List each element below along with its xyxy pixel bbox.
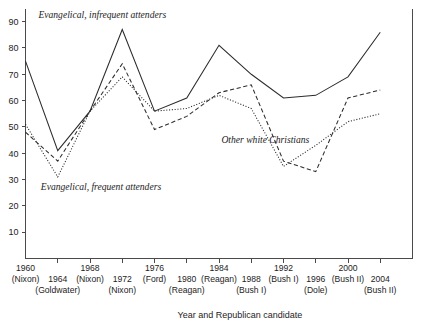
data-series-group: [26, 30, 381, 177]
x-tick-year-1980: 1980: [177, 274, 196, 284]
x-tick-candidate-1980: (Reagan): [169, 285, 205, 295]
y-tick-label: 60: [8, 96, 18, 106]
x-tick-candidate-2004: (Bush II): [364, 285, 397, 295]
y-tick-label: 50: [8, 122, 18, 132]
x-tick-year-2000: 2000: [338, 263, 357, 273]
x-tick-year-1984: 1984: [209, 263, 228, 273]
x-tick-year-2004: 2004: [371, 274, 390, 284]
y-axis-tick-labels: 102030405060708090: [8, 17, 18, 238]
series-annotation-2: Evangelical, frequent attenders: [40, 181, 162, 192]
x-tick-candidate-1968: (Nixon): [76, 274, 104, 284]
x-tick-year-1976: 1976: [145, 263, 164, 273]
y-tick-label: 20: [8, 201, 18, 211]
x-axis-title: Year and Republican candidate: [178, 310, 303, 320]
x-tick-year-1996: 1996: [306, 274, 325, 284]
x-tick-candidate-1964: (Goldwater): [35, 285, 80, 295]
x-tick-year-1972: 1972: [113, 274, 132, 284]
y-tick-label: 10: [8, 227, 18, 237]
x-tick-candidate-1996: (Dole): [304, 285, 328, 295]
x-tick-candidate-1972: (Nixon): [108, 285, 136, 295]
y-tick-label: 90: [8, 17, 18, 27]
series-annotations: Evangelical, infrequent attendersEvangel…: [37, 9, 309, 192]
x-tick-year-1968: 1968: [80, 263, 99, 273]
y-tick-label: 70: [8, 70, 18, 80]
axes-group: [22, 9, 413, 263]
x-tick-candidate-1960: (Nixon): [12, 274, 40, 284]
y-tick-label: 40: [8, 149, 18, 159]
series-line-2: [26, 64, 381, 172]
series-line-3: [26, 77, 381, 177]
x-tick-candidate-1976: (Ford): [143, 274, 167, 284]
x-tick-year-1964: 1964: [48, 274, 67, 284]
y-tick-label: 80: [8, 43, 18, 53]
series-annotation-3: Other white Christians: [221, 134, 309, 145]
series-annotation-1: Evangelical, infrequent attenders: [37, 9, 166, 20]
x-tick-candidate-1992: (Bush I): [268, 274, 298, 284]
x-tick-candidate-1984: (Reagan): [201, 274, 237, 284]
y-tick-label: 30: [8, 175, 18, 185]
x-tick-year-1960: 1960: [16, 263, 35, 273]
series-line-1: [26, 30, 381, 151]
chart-container: 102030405060708090 Evangelical, infreque…: [0, 0, 423, 325]
x-tick-candidate-2000: (Bush II): [332, 274, 365, 284]
line-chart: 102030405060708090 Evangelical, infreque…: [0, 0, 423, 325]
y-tick-marks: [22, 22, 26, 233]
x-tick-candidate-1988: (Bush I): [236, 285, 266, 295]
x-tick-year-1992: 1992: [274, 263, 293, 273]
x-tick-year-1988: 1988: [242, 274, 261, 284]
x-axis-tick-labels: 1960(Nixon)1964(Goldwater)1968(Nixon)197…: [12, 263, 397, 295]
